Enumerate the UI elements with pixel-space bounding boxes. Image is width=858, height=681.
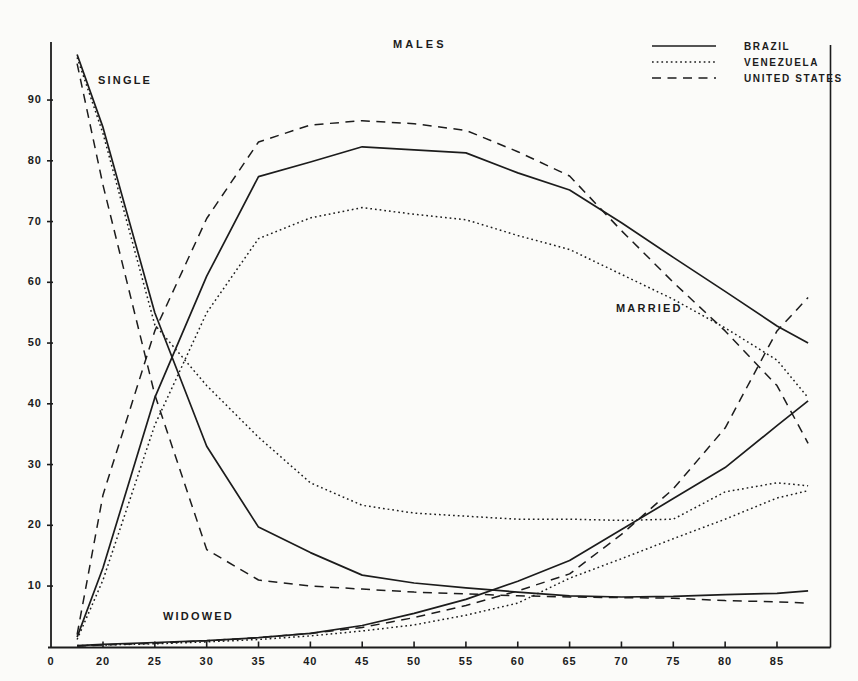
legend-label-venezuela: VENEZUELA: [744, 57, 819, 68]
y-tick-label: 70: [12, 215, 42, 227]
x-tick-label: 40: [295, 655, 325, 667]
x-tick-label: 45: [347, 655, 377, 667]
x-tick-label: 20: [88, 655, 118, 667]
series-line-brazil-married: [77, 147, 808, 637]
x-tick-label: 50: [399, 655, 429, 667]
x-tick-label: 80: [710, 655, 740, 667]
chart-canvas: [0, 0, 858, 681]
series-line-brazil-widowed: [77, 401, 808, 646]
legend-label-united-states: UNITED STATES: [744, 73, 843, 84]
series-line-brazil-single: [77, 55, 808, 598]
chart-figure: MALES BRAZIL VENEZUELA UNITED STATES SIN…: [0, 0, 858, 681]
y-tick-label: 40: [12, 397, 42, 409]
y-tick-label: 10: [12, 579, 42, 591]
x-tick-label: 35: [244, 655, 274, 667]
y-tick-label: 50: [12, 336, 42, 348]
x-tick-label: 30: [192, 655, 222, 667]
x-tick-label: 0: [36, 655, 66, 667]
series-line-united-states-single: [77, 64, 808, 604]
x-tick-label: 60: [503, 655, 533, 667]
y-tick-label: 30: [12, 458, 42, 470]
legend-row-brazil: BRAZIL: [650, 40, 843, 52]
annotation-married: MARRIED: [616, 302, 683, 314]
x-tick-label: 85: [762, 655, 792, 667]
x-tick-label: 55: [451, 655, 481, 667]
legend-line-solid-icon: [650, 40, 718, 52]
series-line-united-states-married: [77, 121, 808, 635]
legend-line-dashed-icon: [650, 72, 718, 84]
x-tick-label: 25: [140, 655, 170, 667]
chart-title: MALES: [393, 38, 447, 50]
series-line-united-states-widowed: [77, 298, 808, 647]
y-tick-label: 90: [12, 93, 42, 105]
annotation-single: SINGLE: [98, 74, 152, 86]
legend-row-united-states: UNITED STATES: [650, 72, 843, 84]
x-tick-label: 70: [606, 655, 636, 667]
annotation-widowed: WIDOWED: [163, 610, 234, 622]
series-line-venezuela-married: [77, 208, 808, 640]
legend: BRAZIL VENEZUELA UNITED STATES: [650, 40, 843, 84]
legend-label-brazil: BRAZIL: [744, 41, 790, 52]
x-tick-label: 65: [555, 655, 585, 667]
series-line-venezuela-widowed: [77, 491, 808, 646]
y-tick-label: 80: [12, 154, 42, 166]
y-tick-label: 60: [12, 275, 42, 287]
x-tick-label: 75: [658, 655, 688, 667]
y-tick-label: 20: [12, 518, 42, 530]
legend-row-venezuela: VENEZUELA: [650, 56, 843, 68]
legend-line-dotted-icon: [650, 56, 718, 68]
